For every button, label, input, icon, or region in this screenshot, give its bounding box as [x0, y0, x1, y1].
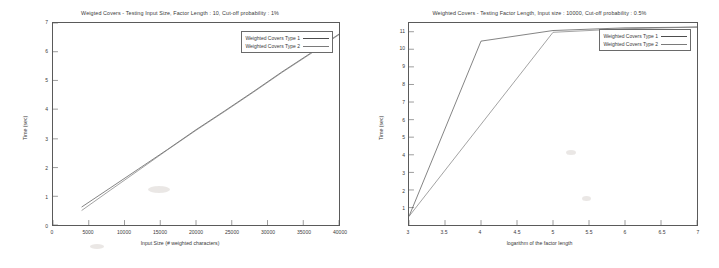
chart-factor-length: Weighted Covers - Testing Factor Length,… [360, 0, 719, 268]
ytick-label: 1 [40, 194, 48, 200]
legend-label-type1: Weighted Covers Type 1 [245, 35, 300, 41]
ytick-label: 3 [40, 136, 48, 142]
ytick-label: 6 [40, 48, 48, 54]
xtick-label: 5.5 [586, 229, 593, 235]
chart-title-left: Weigted Covers - Testing Input Size, Fac… [0, 10, 360, 16]
legend-swatch-type1 [661, 36, 687, 37]
xtick-label: 25000 [225, 229, 239, 235]
ytick-label: 6 [396, 117, 405, 123]
ytick-label: 2 [40, 165, 48, 171]
ytick-label: 4 [40, 106, 48, 112]
ytick-label: 4 [396, 152, 405, 158]
legend-label-type1: Weighted Covers Type 1 [603, 33, 658, 39]
xtick-label: 0 [51, 229, 54, 235]
ytick-label: 9 [396, 63, 405, 69]
xtick-label: 6.5 [659, 229, 666, 235]
scan-artifact [90, 244, 104, 249]
xtick-label: 3 [407, 229, 410, 235]
plot-area-right: Weighted Covers Type 1 Weighted Covers T… [408, 22, 698, 226]
xtick-label: 20000 [189, 229, 203, 235]
xtick-label: 5000 [82, 229, 93, 235]
ytick-label: 3 [396, 170, 405, 176]
ytick-label: 1 [396, 205, 405, 211]
ytick-label: 11 [394, 28, 405, 34]
xtick-label: 4.5 [514, 229, 521, 235]
plot-svg-right [409, 23, 697, 225]
xtick-label: 40000 [333, 229, 347, 235]
chart-input-size: Weigted Covers - Testing Input Size, Fac… [0, 0, 360, 268]
scan-artifact [148, 186, 170, 193]
ytick-label: 8 [396, 81, 405, 87]
xtick-label: 4 [479, 229, 482, 235]
xtick-label: 3.5 [441, 229, 448, 235]
y-axis-label-left: Time (sec) [22, 116, 28, 140]
legend-row-type1: Weighted Covers Type 1 [245, 34, 329, 42]
legend-right: Weighted Covers Type 1 Weighted Covers T… [599, 29, 691, 51]
legend-label-type2: Weighted Covers Type 2 [603, 41, 658, 47]
xtick-label: 15000 [153, 229, 167, 235]
y-tickmarks-right [409, 32, 414, 208]
xtick-label: 6 [624, 229, 627, 235]
x-axis-label-right: logarithm of the factor length [360, 240, 719, 246]
chart-title-right: Weighted Covers - Testing Factor Length,… [360, 10, 719, 16]
legend-row-type2: Weighted Covers Type 2 [603, 40, 687, 48]
x-tickmarks-left [53, 220, 339, 225]
y-axis-label-right: Time (sec) [378, 116, 384, 140]
xtick-label: 5 [552, 229, 555, 235]
y-tickmarks-left [53, 23, 58, 225]
xtick-label: 7 [697, 229, 700, 235]
xtick-label: 35000 [297, 229, 311, 235]
legend-swatch-type2 [303, 46, 329, 47]
ytick-label: 5 [396, 134, 405, 140]
ytick-label: 2 [396, 188, 405, 194]
figure-pair: Weigted Covers - Testing Input Size, Fac… [0, 0, 719, 268]
scan-artifact [566, 150, 576, 155]
x-axis-label-left: Input Size (# weighted characters) [0, 240, 360, 246]
ytick-label: 7 [40, 19, 48, 25]
legend-row-type1: Weighted Covers Type 1 [603, 32, 687, 40]
legend-label-type2: Weighted Covers Type 2 [245, 43, 300, 49]
legend-swatch-type2 [661, 44, 687, 45]
x-tickmarks-right [409, 220, 697, 225]
legend-swatch-type1 [303, 38, 329, 39]
series-line-type2-left [82, 35, 339, 211]
series-line-type2-right [409, 27, 697, 216]
ytick-label: 0 [40, 223, 48, 229]
legend-left: Weighted Covers Type 1 Weighted Covers T… [241, 31, 333, 53]
plot-area-left: Weighted Covers Type 1 Weighted Covers T… [52, 22, 340, 226]
legend-row-type2: Weighted Covers Type 2 [245, 42, 329, 50]
scan-artifact [582, 196, 591, 201]
ytick-label: 5 [40, 77, 48, 83]
ytick-label: 7 [396, 99, 405, 105]
ytick-label: 10 [394, 45, 405, 51]
xtick-label: 10000 [117, 229, 131, 235]
xtick-label: 30000 [261, 229, 275, 235]
plot-svg-left [53, 23, 339, 225]
series-line-type1-right [409, 27, 697, 216]
